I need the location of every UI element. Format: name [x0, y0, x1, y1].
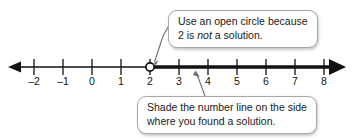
leader-arrowhead-open-circle — [153, 60, 159, 65]
callout-shade-line2: where you found a solution. — [147, 115, 307, 129]
tick-label: 3 — [167, 75, 191, 87]
tick-label: 2 — [138, 75, 162, 87]
callout-open-circle-line2-before: 2 is — [178, 29, 197, 41]
callout-shade: Shade the number line on the side where … — [137, 96, 317, 134]
tick-label: 7 — [283, 75, 307, 87]
tick-label: 5 — [225, 75, 249, 87]
right-arrowhead-icon — [329, 59, 346, 75]
tick-label: –1 — [51, 75, 75, 87]
callout-open-circle-line2-after: a solution. — [212, 29, 263, 41]
callout-open-circle-line2: 2 is not a solution. — [178, 29, 308, 43]
tick-label: 4 — [196, 75, 220, 87]
tick-label: 1 — [109, 75, 133, 87]
open-circle-endpoint-icon — [146, 63, 154, 71]
tick-label: 6 — [254, 75, 278, 87]
callout-open-circle-emphasis: not — [197, 29, 212, 41]
number-line-figure: –2 –1 0 1 2 3 4 5 6 7 8 Use an open circ… — [0, 0, 354, 138]
callout-open-circle-line1: Use an open circle because — [178, 15, 308, 29]
tick-label: –2 — [22, 75, 46, 87]
tick-label: 0 — [80, 75, 104, 87]
callout-shade-line1: Shade the number line on the side — [147, 101, 307, 115]
tick-label: 8 — [312, 75, 336, 87]
callout-open-circle: Use an open circle because 2 is not a so… — [168, 10, 318, 48]
left-arrowhead-icon — [8, 62, 21, 73]
